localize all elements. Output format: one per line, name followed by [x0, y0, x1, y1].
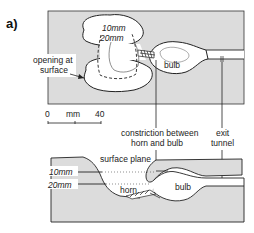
exit-label-line1: exit	[216, 128, 230, 138]
scale-bar: 0 mm 40	[45, 109, 105, 124]
section-label-20mm: 20mm	[47, 180, 72, 190]
scale-unit: mm	[66, 109, 80, 119]
opening-label-line2: surface	[40, 65, 68, 75]
constriction-label-line1: constriction between	[121, 128, 199, 138]
scale-end: 40	[95, 109, 105, 119]
horn-label: horn	[120, 185, 137, 195]
exit-label-line2: tunnel	[211, 138, 234, 148]
plan-label-bulb: bulb	[164, 60, 180, 70]
section-label-10mm: 10mm	[49, 167, 73, 177]
plan-view: 10mm 20mm bulb opening at surface	[30, 11, 244, 104]
burrow-diagram: 10mm 20mm bulb opening at surface 0 mm 4…	[0, 0, 254, 233]
plan-label-20mm: 20mm	[99, 33, 124, 43]
plan-label-10mm: 10mm	[102, 23, 126, 33]
constriction-label-line2: horn and bulb	[131, 138, 183, 148]
opening-label-line1: opening at	[33, 55, 73, 65]
scale-start: 0	[45, 109, 50, 119]
section-bulb-label: bulb	[175, 182, 191, 192]
surface-plane-label: surface plane	[100, 154, 151, 164]
section-view: surface plane 10mm 20mm horn bulb	[46, 154, 244, 222]
